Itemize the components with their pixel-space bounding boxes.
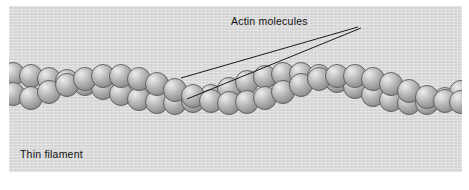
label-actin-molecules: Actin molecules bbox=[231, 15, 308, 27]
label-thin-filament: Thin filament bbox=[20, 148, 83, 160]
diagram-panel: Actin molecules Thin filament bbox=[9, 6, 462, 172]
figure-root: Actin molecules Thin filament bbox=[0, 0, 469, 190]
